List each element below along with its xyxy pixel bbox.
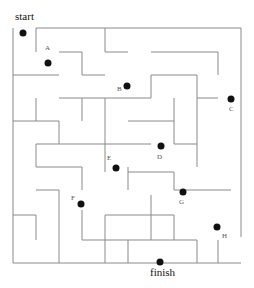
maze-diagram: [0, 0, 254, 288]
waypoint-label-h: H: [222, 232, 227, 240]
waypoint-f: [78, 201, 85, 208]
waypoint-a: [45, 60, 52, 67]
waypoint-start-dot: [20, 30, 27, 37]
waypoint-label-f: F: [71, 194, 75, 202]
waypoint-b: [124, 83, 131, 90]
waypoint-label-a: A: [45, 44, 50, 52]
waypoint-label-g: G: [179, 198, 184, 206]
waypoint-g: [180, 189, 187, 196]
waypoint-e: [113, 165, 120, 172]
waypoint-c: [228, 96, 235, 103]
finish-label: finish: [150, 266, 175, 278]
waypoint-label-b: B: [117, 85, 122, 93]
waypoint-label-e: E: [107, 154, 111, 162]
waypoint-label-d: D: [157, 153, 162, 161]
waypoint-label-c: C: [229, 105, 234, 113]
waypoint-d: [158, 143, 165, 150]
start-label: start: [15, 10, 34, 22]
waypoint-finish-dot: [157, 259, 164, 266]
waypoint-h: [214, 224, 221, 231]
